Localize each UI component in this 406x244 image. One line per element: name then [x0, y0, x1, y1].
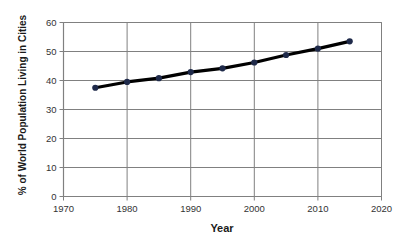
y-tick-label: 50	[46, 46, 57, 57]
x-tick-label: 2020	[371, 203, 392, 214]
x-tick-label: 2010	[307, 203, 328, 214]
data-point-marker	[156, 75, 162, 81]
data-point-marker	[124, 79, 130, 85]
y-axis-ticks: 0102030405060	[46, 17, 57, 202]
x-tick-label: 1970	[53, 203, 74, 214]
x-tick-label: 1990	[180, 203, 201, 214]
y-tick-label: 10	[46, 162, 57, 173]
y-tick-label: 0	[51, 191, 56, 202]
grid-lines	[60, 23, 382, 201]
data-point-marker	[92, 85, 98, 91]
plot-area: 0102030405060 197019801990200020102020	[0, 0, 406, 244]
data-point-marker	[283, 52, 289, 58]
data-point-marker	[219, 65, 225, 71]
x-axis-ticks: 197019801990200020102020	[53, 203, 392, 214]
y-tick-label: 20	[46, 133, 57, 144]
data-point-marker	[347, 38, 353, 44]
y-tick-label: 40	[46, 75, 57, 86]
y-tick-label: 30	[46, 104, 57, 115]
x-tick-label: 1980	[117, 203, 138, 214]
data-point-marker	[251, 59, 257, 65]
x-tick-label: 2000	[244, 203, 265, 214]
y-tick-label: 60	[46, 17, 57, 28]
data-point-marker	[188, 69, 194, 75]
chart-container: % of World Population Living in Cities Y…	[0, 0, 406, 244]
data-point-marker	[315, 46, 321, 52]
